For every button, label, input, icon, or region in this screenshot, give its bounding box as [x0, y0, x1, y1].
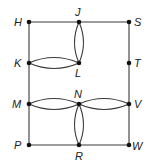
label-S: S [134, 16, 142, 28]
edge-N-R-right [79, 104, 84, 145]
vertex-H [27, 20, 32, 25]
label-W: W [132, 140, 144, 152]
vertex-J [77, 20, 82, 25]
label-V: V [134, 98, 143, 110]
vertex-M [27, 102, 32, 107]
vertex-T [127, 61, 132, 66]
label-J: J [74, 6, 81, 18]
label-L: L [75, 67, 81, 79]
vertex-N [77, 102, 82, 107]
edge-K-L-lower [29, 63, 79, 69]
label-K: K [14, 57, 22, 69]
edge-N-R-left [75, 104, 80, 145]
vertex-L [77, 61, 82, 66]
label-M: M [12, 98, 22, 110]
straight-edges [29, 22, 129, 145]
double-arc-edges [29, 22, 129, 145]
vertex-labels: H J S K L T M N V P R W [12, 6, 144, 162]
label-R: R [75, 150, 83, 162]
graph-diagram: H J S K L T M N V P R W [0, 0, 150, 166]
edge-J-L-right [79, 22, 84, 63]
vertex-S [127, 20, 132, 25]
edge-K-L-upper [29, 58, 79, 64]
edge-N-V-upper [79, 99, 129, 105]
vertex-W [127, 143, 132, 148]
vertex-V [127, 102, 132, 107]
label-H: H [14, 16, 22, 28]
edge-N-V-lower [79, 104, 129, 110]
edge-M-N-lower [29, 104, 79, 110]
vertex-R [77, 143, 82, 148]
edge-M-N-upper [29, 99, 79, 105]
label-N: N [74, 88, 82, 100]
vertex-K [27, 61, 32, 66]
edge-J-L-left [75, 22, 80, 63]
label-T: T [134, 57, 142, 69]
vertex-P [27, 143, 32, 148]
vertices [27, 20, 132, 148]
label-P: P [14, 139, 22, 151]
